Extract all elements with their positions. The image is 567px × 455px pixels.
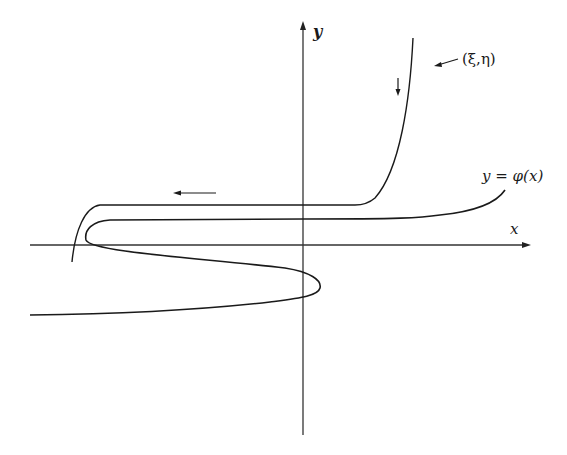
trajectory-point-label: (ξ,η) <box>462 50 496 68</box>
manifold-label: y = φ(x) <box>482 167 543 185</box>
left-arrow-icon <box>173 191 216 196</box>
diagram-svg <box>0 0 567 455</box>
y-axis-arrow-icon <box>300 21 306 30</box>
phase-diagram: y x (ξ,η) y = φ(x) <box>0 0 567 455</box>
y-axis-label: y <box>313 22 322 41</box>
down-arrow-icon <box>396 78 401 96</box>
x-axis-label: x <box>510 220 518 238</box>
manifold-curve <box>30 190 505 315</box>
pointer-arrow-icon <box>434 59 458 67</box>
trajectory-curve <box>72 38 413 262</box>
x-axis-arrow-icon <box>522 242 531 248</box>
y-axis <box>300 21 306 435</box>
